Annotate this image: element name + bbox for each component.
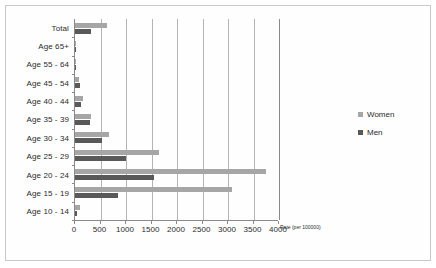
x-axis-tick-label: 500	[93, 225, 106, 234]
chart-legend: WomenMen	[358, 110, 428, 146]
bar-women	[75, 77, 79, 82]
bar-women	[75, 169, 266, 174]
bar-women	[75, 132, 109, 137]
bar-men	[75, 47, 76, 52]
x-axis-tick	[253, 221, 254, 224]
x-axis-tick	[100, 221, 101, 224]
x-axis-title: Rate (per 100000)	[280, 224, 321, 230]
legend-item-women[interactable]: Women	[358, 110, 428, 119]
bar-row	[75, 56, 278, 74]
bar-row	[75, 165, 278, 183]
x-axis-tick-label: 2500	[193, 225, 211, 234]
bar-men	[75, 175, 154, 180]
bar-row	[75, 202, 278, 220]
y-axis-label: Total	[6, 19, 74, 37]
chart-container: TotalAge 65+Age 55 - 64Age 45 - 54Age 40…	[6, 6, 430, 260]
y-axis-label: Age 10 - 14	[6, 203, 74, 221]
bar-row	[75, 110, 278, 128]
bar-row	[75, 92, 278, 110]
y-axis-category-labels: TotalAge 65+Age 55 - 64Age 45 - 54Age 40…	[6, 19, 74, 221]
gridline	[279, 19, 280, 220]
x-axis-tick-label: 1000	[116, 225, 134, 234]
y-axis-label: Age 65+	[6, 37, 74, 55]
bar-women	[75, 41, 76, 46]
x-axis-tick	[176, 221, 177, 224]
bar-row	[75, 74, 278, 92]
x-axis-tick-label: 3500	[244, 225, 262, 234]
bar-men	[75, 138, 102, 143]
legend-label: Women	[367, 110, 394, 119]
bar-men	[75, 193, 118, 198]
x-axis-tick-label: 0	[72, 225, 76, 234]
bar-row	[75, 19, 278, 37]
x-axis-tick	[278, 221, 279, 224]
bar-row	[75, 37, 278, 55]
x-axis-tick-label: 1500	[142, 225, 160, 234]
bar-row	[75, 147, 278, 165]
legend-swatch-icon	[358, 112, 363, 117]
bar-women	[75, 205, 80, 210]
bar-series-group	[75, 19, 278, 220]
bar-men	[75, 83, 80, 88]
y-axis-label: Age 15 - 19	[6, 184, 74, 202]
x-axis-tick	[74, 221, 75, 224]
x-axis-tick	[151, 221, 152, 224]
y-axis-label: Age 35 - 39	[6, 111, 74, 129]
y-axis-label: Age 45 - 54	[6, 74, 74, 92]
x-axis-tick	[227, 221, 228, 224]
bar-row	[75, 129, 278, 147]
legend-label: Men	[367, 128, 383, 137]
y-axis-label: Age 30 - 34	[6, 129, 74, 147]
legend-item-men[interactable]: Men	[358, 128, 428, 137]
bar-women	[75, 187, 232, 192]
bar-men	[75, 65, 76, 70]
chart-frame: TotalAge 65+Age 55 - 64Age 45 - 54Age 40…	[5, 5, 431, 261]
legend-swatch-icon	[358, 130, 363, 135]
bar-men	[75, 102, 81, 107]
bar-men	[75, 120, 90, 125]
bar-men	[75, 156, 126, 161]
y-axis-label: Age 40 - 44	[6, 92, 74, 110]
bar-women	[75, 114, 91, 119]
bar-women	[75, 150, 159, 155]
bar-men	[75, 211, 77, 216]
x-axis-tick	[202, 221, 203, 224]
y-axis-label: Age 55 - 64	[6, 56, 74, 74]
y-axis-label: Age 25 - 29	[6, 148, 74, 166]
x-axis-tick	[125, 221, 126, 224]
bar-women	[75, 59, 76, 64]
bar-men	[75, 29, 91, 34]
bar-women	[75, 23, 107, 28]
y-axis-label: Age 20 - 24	[6, 166, 74, 184]
x-axis: 05001000150020002500300035004000	[74, 221, 278, 241]
bar-row	[75, 183, 278, 201]
plot-area	[74, 19, 278, 221]
x-axis-tick-label: 2000	[167, 225, 185, 234]
bar-women	[75, 96, 83, 101]
x-axis-tick-label: 3000	[218, 225, 236, 234]
